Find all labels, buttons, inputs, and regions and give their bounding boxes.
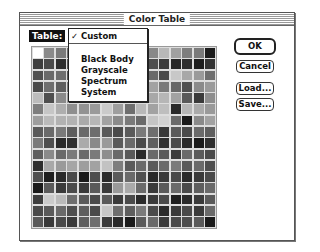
color-cell[interactable]: [148, 217, 158, 227]
color-cell[interactable]: [159, 183, 169, 193]
color-cell[interactable]: [194, 172, 204, 182]
color-cell[interactable]: [182, 217, 192, 227]
color-cell[interactable]: [56, 127, 66, 137]
color-cell[interactable]: [136, 104, 146, 114]
color-cell[interactable]: [159, 195, 169, 205]
color-cell[interactable]: [125, 195, 135, 205]
color-cell[interactable]: [159, 93, 169, 103]
color-cell[interactable]: [194, 138, 204, 148]
color-cell[interactable]: [113, 172, 123, 182]
color-cell[interactable]: [79, 138, 89, 148]
color-cell[interactable]: [159, 48, 169, 58]
color-cell[interactable]: [182, 127, 192, 137]
color-cell[interactable]: [56, 48, 66, 58]
color-cell[interactable]: [113, 183, 123, 193]
color-cell[interactable]: [159, 82, 169, 92]
color-cell[interactable]: [171, 59, 181, 69]
color-cell[interactable]: [205, 150, 215, 160]
color-cell[interactable]: [67, 127, 77, 137]
color-cell[interactable]: [125, 172, 135, 182]
color-cell[interactable]: [56, 59, 66, 69]
color-cell[interactable]: [136, 138, 146, 148]
color-cell[interactable]: [159, 138, 169, 148]
color-cell[interactable]: [148, 116, 158, 126]
color-cell[interactable]: [171, 172, 181, 182]
ok-button[interactable]: OK: [234, 38, 276, 55]
color-cell[interactable]: [148, 206, 158, 216]
color-cell[interactable]: [67, 217, 77, 227]
color-cell[interactable]: [182, 48, 192, 58]
color-cell[interactable]: [79, 127, 89, 137]
color-cell[interactable]: [113, 161, 123, 171]
color-cell[interactable]: [56, 150, 66, 160]
color-cell[interactable]: [113, 116, 123, 126]
table-popup-label[interactable]: Table:: [29, 30, 65, 42]
color-cell[interactable]: [56, 93, 66, 103]
color-cell[interactable]: [125, 138, 135, 148]
color-cell[interactable]: [33, 127, 43, 137]
color-cell[interactable]: [205, 161, 215, 171]
color-cell[interactable]: [67, 150, 77, 160]
color-cell[interactable]: [56, 161, 66, 171]
color-cell[interactable]: [44, 82, 54, 92]
color-cell[interactable]: [148, 127, 158, 137]
color-cell[interactable]: [125, 150, 135, 160]
color-cell[interactable]: [171, 93, 181, 103]
color-cell[interactable]: [171, 161, 181, 171]
color-cell[interactable]: [44, 183, 54, 193]
color-cell[interactable]: [44, 206, 54, 216]
color-cell[interactable]: [44, 195, 54, 205]
menu-item-spectrum[interactable]: Spectrum: [69, 76, 147, 86]
color-cell[interactable]: [90, 172, 100, 182]
color-cell[interactable]: [113, 206, 123, 216]
color-cell[interactable]: [90, 150, 100, 160]
color-cell[interactable]: [182, 116, 192, 126]
color-cell[interactable]: [148, 71, 158, 81]
color-cell[interactable]: [67, 183, 77, 193]
color-cell[interactable]: [148, 138, 158, 148]
color-cell[interactable]: [102, 183, 112, 193]
color-cell[interactable]: [182, 195, 192, 205]
color-cell[interactable]: [67, 206, 77, 216]
color-cell[interactable]: [33, 71, 43, 81]
color-cell[interactable]: [125, 127, 135, 137]
color-cell[interactable]: [194, 217, 204, 227]
color-cell[interactable]: [171, 195, 181, 205]
menu-item-custom[interactable]: ✓ Custom: [69, 31, 147, 41]
color-cell[interactable]: [148, 93, 158, 103]
color-cell[interactable]: [136, 150, 146, 160]
color-cell[interactable]: [44, 93, 54, 103]
color-cell[interactable]: [33, 59, 43, 69]
color-cell[interactable]: [67, 138, 77, 148]
color-cell[interactable]: [182, 93, 192, 103]
color-cell[interactable]: [33, 48, 43, 58]
color-cell[interactable]: [44, 138, 54, 148]
color-cell[interactable]: [102, 206, 112, 216]
color-cell[interactable]: [113, 138, 123, 148]
color-cell[interactable]: [44, 150, 54, 160]
color-cell[interactable]: [113, 195, 123, 205]
color-cell[interactable]: [90, 138, 100, 148]
color-cell[interactable]: [182, 172, 192, 182]
color-cell[interactable]: [56, 138, 66, 148]
color-cell[interactable]: [79, 195, 89, 205]
color-cell[interactable]: [159, 206, 169, 216]
color-cell[interactable]: [136, 206, 146, 216]
color-cell[interactable]: [102, 217, 112, 227]
color-cell[interactable]: [44, 161, 54, 171]
color-cell[interactable]: [102, 116, 112, 126]
color-cell[interactable]: [90, 161, 100, 171]
color-cell[interactable]: [44, 172, 54, 182]
color-cell[interactable]: [44, 217, 54, 227]
color-cell[interactable]: [159, 150, 169, 160]
color-cell[interactable]: [33, 206, 43, 216]
color-cell[interactable]: [194, 93, 204, 103]
color-cell[interactable]: [148, 172, 158, 182]
color-cell[interactable]: [33, 183, 43, 193]
color-cell[interactable]: [90, 104, 100, 114]
color-cell[interactable]: [182, 104, 192, 114]
color-cell[interactable]: [194, 206, 204, 216]
color-cell[interactable]: [79, 150, 89, 160]
color-cell[interactable]: [171, 104, 181, 114]
color-cell[interactable]: [136, 116, 146, 126]
